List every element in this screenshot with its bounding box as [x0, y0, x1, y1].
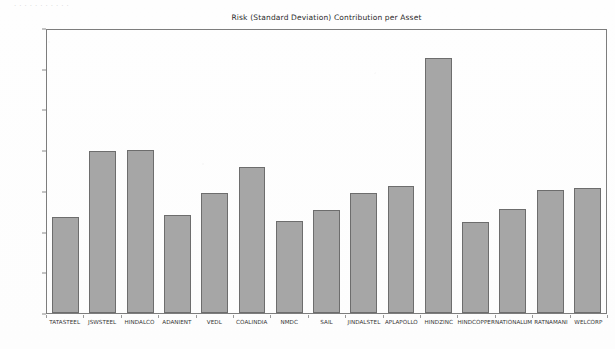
x-axis-label-aplapollo: APLAPOLLO — [383, 315, 420, 341]
x-axis-label-hindcopper: HINDCOPPER — [457, 315, 494, 341]
bar-slot — [47, 30, 84, 313]
x-axis-tick-mark — [270, 315, 271, 318]
bar-hindcopper[interactable] — [462, 222, 489, 313]
bar-slot — [345, 30, 382, 313]
x-axis-label-vedl: VEDL — [196, 315, 233, 341]
bar-jindalstel[interactable] — [350, 193, 377, 313]
bar-slot — [382, 30, 419, 313]
x-axis-tick-mark — [495, 315, 496, 318]
bar-slot — [308, 30, 345, 313]
x-axis-tick-mark — [345, 315, 346, 318]
bar-slot — [84, 30, 121, 313]
x-axis-tick-mark — [46, 315, 47, 318]
bar-nmdc[interactable] — [276, 221, 303, 313]
x-axis-label-coalindia: COALINDIA — [233, 315, 270, 341]
x-axis-label-tatasteel: TATASTEEL — [46, 315, 83, 341]
bar-tatasteel[interactable] — [52, 217, 79, 313]
bar-ratnamani[interactable] — [537, 190, 564, 313]
chart-figure: Risk (Standard Deviation) Contribution p… — [0, 0, 615, 349]
x-axis-tick-mark — [308, 315, 309, 318]
x-axis-tick-mark — [196, 315, 197, 318]
bar-slot — [531, 30, 568, 313]
x-axis-label-adanient: ADANIENT — [158, 315, 195, 341]
bar-slot — [233, 30, 270, 313]
x-axis-tick-mark — [158, 315, 159, 318]
x-axis-label-jswsteel: JSWSTEEL — [83, 315, 120, 341]
bar-sail[interactable] — [313, 210, 340, 313]
bar-welcorp[interactable] — [574, 188, 601, 313]
bar-coalindia[interactable] — [239, 167, 266, 313]
x-axis-label-hindzinc: HINDZINC — [420, 315, 457, 341]
bar-aplapollo[interactable] — [388, 186, 415, 313]
x-axis-tick-mark — [607, 315, 608, 318]
x-axis-label-welcorp: WELCORP — [570, 315, 607, 341]
x-axis-label-jindalstel: JINDALSTEL — [345, 315, 382, 341]
plot-area — [46, 29, 607, 314]
bar-slot — [196, 30, 233, 313]
x-axis-label-ratnamani: RATNAMANI — [532, 315, 569, 341]
x-axis-label-nationalum: NATIONALUM — [495, 315, 532, 341]
x-axis-label-hindalco: HINDALCO — [121, 315, 158, 341]
bar-adanient[interactable] — [164, 215, 191, 313]
bar-slot — [122, 30, 159, 313]
x-axis-label-nmdc: NMDC — [270, 315, 307, 341]
bar-slot — [420, 30, 457, 313]
x-axis-tick-mark — [121, 315, 122, 318]
bar-hindalco[interactable] — [127, 150, 154, 313]
x-axis-tick-mark — [420, 315, 421, 318]
y-axis: 3.5000%3.0000%2.5000%2.0000%1.5000%1.000… — [0, 0, 46, 349]
x-axis-tick-mark — [457, 315, 458, 318]
x-axis-tick-mark — [233, 315, 234, 318]
x-axis: TATASTEELJSWSTEELHINDALCOADANIENTVEDLCOA… — [46, 315, 607, 341]
x-axis-tick-mark — [383, 315, 384, 318]
bar-slot — [457, 30, 494, 313]
bar-hindzinc[interactable] — [425, 58, 452, 313]
bar-nationalum[interactable] — [499, 209, 526, 313]
bar-slot — [271, 30, 308, 313]
x-axis-label-sail: SAIL — [308, 315, 345, 341]
x-axis-tick-mark — [570, 315, 571, 318]
bar-jswsteel[interactable] — [89, 151, 116, 313]
bar-series — [47, 30, 606, 313]
x-axis-tick-mark — [532, 315, 533, 318]
chart-title: Risk (Standard Deviation) Contribution p… — [44, 13, 609, 22]
bar-slot — [159, 30, 196, 313]
bar-slot — [494, 30, 531, 313]
bar-slot — [569, 30, 606, 313]
x-axis-tick-mark — [83, 315, 84, 318]
bar-vedl[interactable] — [201, 193, 228, 313]
